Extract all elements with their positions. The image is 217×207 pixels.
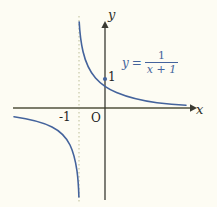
y-axis-arrow-icon (101, 21, 108, 28)
y-intercept-point (103, 77, 107, 81)
y-axis-label: y (108, 8, 115, 21)
x-axis-label: x (196, 103, 203, 116)
origin-label: O (91, 112, 101, 124)
function-formula-annotation: y = 1 x + 1 (122, 50, 178, 75)
formula-fraction: 1 x + 1 (145, 50, 178, 75)
graph-canvas (0, 0, 217, 207)
formula-equals-sign: = (132, 57, 142, 69)
formula-numerator: 1 (155, 50, 168, 62)
formula-lhs: y (122, 57, 129, 69)
formula-denominator: x + 1 (145, 63, 178, 75)
hyperbola-figure: y x O -1 1 y = 1 x + 1 (0, 0, 217, 207)
x-tick-label-negative-one: -1 (59, 111, 71, 123)
curve-left-branch (14, 117, 79, 197)
y-tick-label-one: 1 (108, 71, 116, 83)
